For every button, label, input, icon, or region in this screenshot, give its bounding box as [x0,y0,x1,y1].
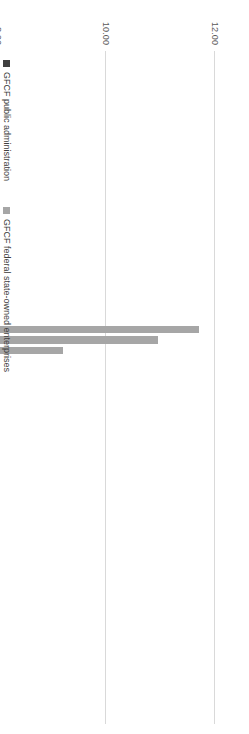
bar-column: 1962 [0,179,215,187]
bar-column: 1950 [0,52,215,60]
bar-column: 1998 [0,557,215,565]
bar-column: 1973 [0,294,215,302]
bar-column: 1999 [0,568,215,576]
bar-column: 1953 [0,84,215,92]
bar-segment-state-owned-enterprises [0,336,158,344]
bar-column: 1960 [0,158,215,166]
bar-column: 2002 [0,599,215,607]
bar-column: 1982 [0,389,215,397]
bar-column: 2007 [0,652,215,660]
bar-column: 2003 [0,610,215,618]
bar-column: 2008 [0,662,215,670]
bar-column: 1978 [0,347,215,355]
legend-swatch-icon [4,207,11,214]
bar-column: 1955 [0,105,215,113]
bar-column: 1971 [0,273,215,281]
bar-column: 2013 [0,715,215,723]
bar-column: 2012 [0,704,215,712]
legend-item[interactable]: GFCF public administration [2,60,12,181]
bar-column: 2006 [0,641,215,649]
legend-label: GFCF public administration [2,72,12,181]
bar-column: 2000 [0,578,215,586]
stacked-bar-chart: 12.0010.008.006.004.002.000.001950195119… [0,0,249,734]
bar-column: 1970 [0,263,215,271]
bar-column: 1967 [0,231,215,239]
plot-area: 12.0010.008.006.004.002.000.001950195119… [0,51,215,724]
bar-column: 1979 [0,357,215,365]
bar-column: 1995 [0,526,215,534]
bar-column: 1987 [0,442,215,450]
bar-column: 1981 [0,378,215,386]
bar-column: 1969 [0,252,215,260]
bar-column: 1951 [0,63,215,71]
bar-column: 1992 [0,494,215,502]
bar-column: 1961 [0,168,215,176]
legend-swatch-icon [4,60,11,67]
bar-column: 1990 [0,473,215,481]
bar-column: 1974 [0,305,215,313]
bar-column: 1977 [0,336,215,344]
bar-column: 1968 [0,242,215,250]
bar-column: 1966 [0,221,215,229]
bar-column: 1980 [0,368,215,376]
bar-column: 1988 [0,452,215,460]
bar-column: 1954 [0,95,215,103]
chart-legend: GFCF public administrationGFCF federal s… [2,60,12,372]
bar-column: 1958 [0,137,215,145]
bar-column: 2001 [0,589,215,597]
bar-column: 1986 [0,431,215,439]
bar-column: 1959 [0,147,215,155]
axis-tick-label: 10.00 [102,22,112,45]
bar-column: 1991 [0,484,215,492]
axis-tick-label: 8.00 [0,27,3,45]
bar-column: 2010 [0,683,215,691]
bar-column: 1985 [0,421,215,429]
axis-tick-label: 12.00 [210,22,220,45]
bar-column: 1989 [0,463,215,471]
legend-item[interactable]: GFCF federal state-owned enterprises [2,207,12,372]
rotated-chart-wrapper: 12.0010.008.006.004.002.000.001950195119… [0,0,249,734]
bar-column: 1996 [0,536,215,544]
bar-column: 1993 [0,505,215,513]
bar-column: 1976 [0,326,215,334]
bar-column: 2004 [0,620,215,628]
bar-column: 1956 [0,116,215,124]
bar-column: 1952 [0,74,215,82]
bar-column: 1994 [0,515,215,523]
bar-column: 1972 [0,284,215,292]
bar-segment-state-owned-enterprises [0,326,199,334]
bar-column: 1984 [0,410,215,418]
bar-column: 2005 [0,631,215,639]
bar-column: 2009 [0,673,215,681]
bar-column: 1975 [0,315,215,323]
bar-column: 1965 [0,210,215,218]
bar-column: 1997 [0,547,215,555]
bar-column: 1964 [0,200,215,208]
bar-column: 1957 [0,126,215,134]
legend-label: GFCF federal state-owned enterprises [2,219,12,372]
bar-column: 2011 [0,694,215,702]
bar-column: 1983 [0,399,215,407]
bar-column: 1963 [0,189,215,197]
